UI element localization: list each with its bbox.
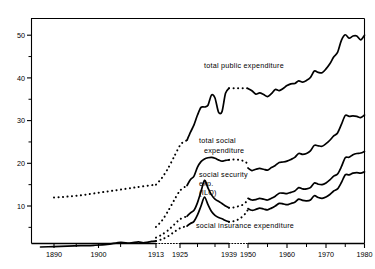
x-tick-label-1925: 1925 [172, 250, 188, 259]
x-tick-label-1950: 1950 [240, 250, 256, 259]
label-social-security-exp-line2: exp. [199, 179, 214, 188]
x-tick-label-1890: 1890 [46, 250, 62, 259]
y-tick-label-10: 10 [17, 202, 25, 211]
label-total-social-expenditure-line2: expenditure [204, 146, 244, 155]
label-social-security-exp-line3: (ILO) [199, 188, 217, 197]
x-tick-label-1980: 1980 [357, 250, 373, 259]
x-tick-label-1960: 1960 [279, 250, 295, 259]
y-tick-label-50: 50 [17, 31, 25, 40]
x-tick-label-1900: 1900 [91, 250, 107, 259]
y-tick-label-20: 20 [17, 159, 25, 168]
y-tick-label-30: 30 [17, 116, 25, 125]
y-tick-label-40: 40 [17, 74, 25, 83]
x-tick-label-1970: 1970 [318, 250, 334, 259]
expenditure-line-chart: 1020304050189019001913192519391950196019… [0, 0, 375, 269]
x-tick-label-1939: 1939 [221, 250, 237, 259]
x-tick-label-1913: 1913 [148, 250, 164, 259]
chart-background [0, 0, 375, 269]
chart-container: 1020304050189019001913192519391950196019… [0, 0, 375, 269]
label-social-insurance-expenditure: social insurance expenditure [196, 221, 294, 230]
label-total-public-expenditure: total public expenditure [204, 61, 284, 70]
label-social-security-exp-line1: social security [199, 170, 248, 179]
label-total-social-expenditure-line1: total social [199, 136, 236, 145]
